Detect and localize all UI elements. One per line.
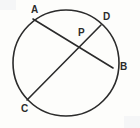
chord-ab-line (33, 19, 113, 68)
point-label-d: D (103, 12, 110, 22)
point-label-p: P (78, 28, 85, 38)
chord-cd-line (27, 25, 101, 100)
geometry-figure: A D P B C (0, 0, 140, 128)
point-label-a: A (31, 5, 38, 15)
point-label-c: C (21, 104, 28, 114)
circle-outline (13, 10, 119, 116)
point-label-b: B (120, 62, 127, 72)
